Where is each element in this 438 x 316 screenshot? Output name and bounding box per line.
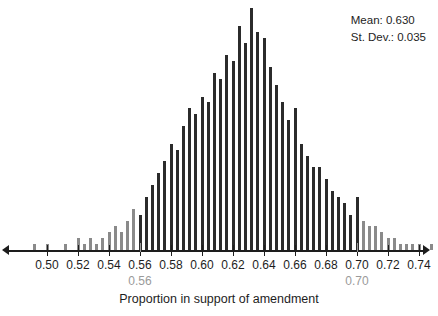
histogram-bar [318, 167, 321, 250]
histogram-bar [163, 161, 166, 250]
histogram-bar [325, 179, 328, 250]
axis-tick [388, 245, 389, 256]
axis-tick-label: 0.52 [66, 258, 89, 272]
axis-tick [264, 245, 265, 256]
reference-mark [357, 243, 358, 252]
histogram-bar [256, 32, 259, 250]
histogram-bar [225, 55, 228, 250]
histogram-bar [306, 156, 309, 250]
histogram-bar [263, 38, 266, 250]
histogram-bar [182, 126, 185, 250]
histogram-bar [157, 173, 160, 250]
axis-tick-label: 0.56 [128, 258, 151, 272]
histogram-bar [114, 226, 117, 250]
histogram-bar [300, 144, 303, 250]
x-axis-line [8, 250, 426, 252]
histogram-bar [207, 102, 210, 250]
histogram-bar [151, 185, 154, 250]
histogram-bar [337, 197, 340, 250]
axis-tick [326, 245, 327, 256]
axis-arrow-left-icon [2, 245, 9, 255]
axis-tick-label: 0.62 [221, 258, 244, 272]
axis-tick-label: 0.64 [252, 258, 275, 272]
axis-tick [109, 245, 110, 256]
axis-tick [295, 245, 296, 256]
axis-tick [171, 245, 172, 256]
axis-tick-label: 0.50 [35, 258, 58, 272]
axis-tick-label: 0.68 [314, 258, 337, 272]
axis-tick-label: 0.72 [376, 258, 399, 272]
reference-label: 0.56 [128, 274, 151, 288]
reference-label: 0.70 [345, 274, 368, 288]
histogram-bar [294, 108, 297, 250]
histogram-bar [368, 226, 371, 250]
histogram-bar [89, 238, 92, 250]
axis-arrow-right-icon [423, 245, 430, 255]
axis-tick-label: 0.66 [283, 258, 306, 272]
histogram-bar [430, 244, 433, 250]
histogram-bar [281, 102, 284, 250]
histogram-bar [120, 232, 123, 250]
histogram-bar [244, 43, 247, 250]
histogram-bar [269, 67, 272, 250]
axis-tick-label: 0.74 [407, 258, 430, 272]
axis-tick [47, 245, 48, 256]
histogram-bar [238, 26, 241, 250]
sampling-distribution-figure: Mean: 0.630 St. Dev.: 0.035 0.500.520.54… [0, 0, 438, 316]
histogram-bar [362, 221, 365, 251]
histogram-bar [213, 73, 216, 250]
histogram-bar [201, 97, 204, 250]
axis-tick [233, 245, 234, 256]
histogram-bar [331, 191, 334, 250]
axis-tick [419, 245, 420, 256]
histogram-bar [101, 238, 104, 250]
x-axis-title: Proportion in support of amendment [0, 292, 438, 306]
histogram-bar [343, 203, 346, 250]
histogram-bar [312, 167, 315, 250]
axis-tick-label: 0.54 [97, 258, 120, 272]
axis-tick [78, 245, 79, 256]
histogram-bar [170, 144, 173, 250]
axis-tick-label: 0.60 [190, 258, 213, 272]
histogram-bar [275, 85, 278, 250]
histogram-bar [349, 215, 352, 250]
histogram-bar [374, 226, 377, 250]
histogram-bar [132, 209, 135, 250]
reference-mark [140, 243, 141, 252]
histogram-bar [393, 238, 396, 250]
histogram-bar [126, 221, 129, 251]
histogram-bar [194, 114, 197, 250]
histogram-bar [250, 8, 253, 250]
histogram-bar [188, 108, 191, 250]
plot-area [0, 0, 438, 252]
histogram-bar [232, 61, 235, 250]
histogram-bar [380, 232, 383, 250]
histogram-bar [145, 197, 148, 250]
histogram-bar [219, 79, 222, 250]
axis-tick-label: 0.58 [159, 258, 182, 272]
axis-tick-label: 0.70 [345, 258, 368, 272]
axis-tick [202, 245, 203, 256]
histogram-bar [176, 150, 179, 250]
histogram-bar [287, 120, 290, 250]
